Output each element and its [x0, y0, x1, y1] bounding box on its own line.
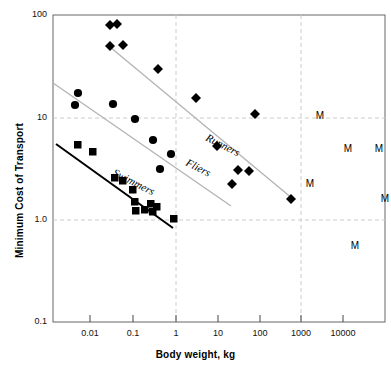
- m-marker: M: [351, 240, 359, 251]
- x-tick-label-1000: 1000: [281, 328, 321, 338]
- chart-figure: M M M M M M Runners Fliers Swimmers 100 …: [0, 0, 391, 369]
- m-marker: M: [344, 143, 352, 154]
- x-axis-title: Body weight, kg: [0, 349, 391, 360]
- m-marker: M: [381, 193, 389, 204]
- y-tick-label-10: 10: [13, 112, 47, 122]
- m-marker: M: [375, 143, 383, 154]
- x-tick-label-100: 100: [240, 328, 280, 338]
- x-tick-label-10000: 10000: [323, 328, 363, 338]
- x-tick-label-10: 10: [198, 328, 238, 338]
- y-tick-label-0.1: 0.1: [13, 316, 47, 326]
- chart-plot-area: M M M M M M Runners Fliers Swimmers: [0, 0, 391, 369]
- m-marker: M: [306, 178, 314, 189]
- y-axis-title: Minimum Cost of Transport: [14, 123, 25, 258]
- x-tick-label-0.1: 0.1: [113, 328, 153, 338]
- plot-frame: [53, 15, 385, 322]
- m-marker: M: [316, 110, 324, 121]
- y-tick-label-100: 100: [13, 9, 47, 19]
- x-tick-label-0.01: 0.01: [70, 328, 110, 338]
- x-tick-label-1: 1: [156, 328, 196, 338]
